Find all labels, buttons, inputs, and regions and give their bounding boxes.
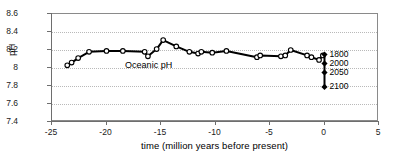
scenario-year-label: 2050 bbox=[330, 68, 349, 77]
future-scenario-data-point bbox=[321, 69, 327, 75]
x-tick-mark bbox=[160, 121, 161, 125]
x-tick-mark bbox=[324, 121, 325, 125]
oceanic-ph-data-point bbox=[65, 63, 70, 68]
y-tick-mark bbox=[47, 13, 51, 14]
scenario-year-label: 1800 bbox=[330, 50, 349, 59]
oceanic-ph-data-point bbox=[104, 49, 109, 54]
y-tick-label: 8.4 bbox=[0, 27, 18, 36]
oceanic-ph-data-point bbox=[288, 48, 293, 53]
y-tick-label: 7.8 bbox=[0, 81, 18, 90]
y-tick-mark bbox=[47, 31, 51, 32]
oceanic-ph-data-point bbox=[283, 53, 288, 58]
scenario-year-label: 2100 bbox=[330, 82, 349, 91]
x-tick-label: -5 bbox=[254, 128, 284, 137]
y-tick-label: 8 bbox=[0, 63, 18, 72]
scenario-year-label: 2000 bbox=[330, 59, 349, 68]
ocean-ph-chart-figure: 7.47.67.888.28.48.6 -25-20-15-10-505 pH … bbox=[0, 0, 400, 161]
oceanic-ph-data-point bbox=[309, 55, 314, 60]
oceanic-ph-data-point bbox=[87, 50, 92, 55]
y-tick-label: 7.6 bbox=[0, 99, 18, 108]
oceanic-ph-data-point bbox=[258, 53, 263, 58]
future-scenario-data-point bbox=[321, 60, 327, 66]
y-axis-line bbox=[51, 13, 52, 122]
x-tick-label: -15 bbox=[145, 128, 175, 137]
y-tick-mark bbox=[47, 49, 51, 50]
future-scenario-data-point bbox=[321, 84, 327, 90]
x-tick-mark bbox=[215, 121, 216, 125]
x-tick-label: -25 bbox=[36, 128, 66, 137]
series-annotation-label: Oceanic pH bbox=[125, 60, 172, 70]
oceanic-ph-data-point bbox=[142, 50, 147, 55]
x-tick-mark bbox=[106, 121, 107, 125]
y-axis-title: pH bbox=[6, 43, 17, 56]
x-tick-mark bbox=[51, 121, 52, 125]
oceanic-ph-data-point bbox=[210, 50, 215, 55]
x-tick-mark bbox=[269, 121, 270, 125]
oceanic-ph-data-point bbox=[146, 54, 151, 59]
oceanic-ph-data-point bbox=[174, 44, 179, 49]
y-tick-label: 7.4 bbox=[0, 117, 18, 126]
x-tick-label: 5 bbox=[363, 128, 393, 137]
oceanic-ph-data-point bbox=[317, 58, 322, 63]
x-tick-label: -20 bbox=[91, 128, 121, 137]
oceanic-ph-data-point bbox=[199, 50, 204, 55]
oceanic-ph-data-point bbox=[121, 49, 126, 54]
oceanic-ph-data-point bbox=[154, 47, 159, 52]
y-tick-mark bbox=[47, 67, 51, 68]
x-tick-label: -10 bbox=[200, 128, 230, 137]
y-tick-mark bbox=[47, 103, 51, 104]
y-tick-mark bbox=[47, 85, 51, 86]
oceanic-ph-data-point bbox=[224, 49, 229, 54]
oceanic-ph-data-point bbox=[187, 50, 192, 55]
oceanic-ph-data-point bbox=[161, 38, 166, 43]
y-tick-label: 8.6 bbox=[0, 9, 18, 18]
x-tick-mark bbox=[378, 121, 379, 125]
oceanic-ph-data-point bbox=[76, 56, 81, 61]
x-axis-title: time (million years before present) bbox=[51, 140, 378, 151]
oceanic-ph-data-point bbox=[69, 60, 74, 65]
x-tick-label: 0 bbox=[309, 128, 339, 137]
